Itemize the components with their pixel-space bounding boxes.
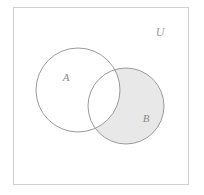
universe-label: U xyxy=(156,25,166,39)
set-label-b: B xyxy=(143,112,150,124)
region-b-minus-a-shading xyxy=(0,0,204,195)
set-label-a: A xyxy=(62,71,70,83)
venn-diagram-canvas: A B U xyxy=(0,0,204,195)
venn-diagram-figure: A B U xyxy=(0,0,204,195)
